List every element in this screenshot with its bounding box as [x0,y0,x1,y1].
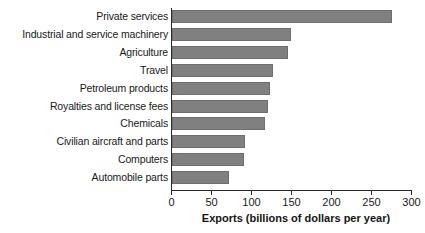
x-tick [331,190,332,195]
bar [172,64,274,77]
category-label: Computers [0,153,168,166]
bar-row: Private services [0,10,425,23]
x-tick [171,190,172,195]
category-label: Royalties and license fees [0,100,168,113]
bar [172,100,269,113]
x-tick [211,190,212,195]
x-axis-title: Exports (billions of dollars per year) [171,212,421,224]
x-tick [291,190,292,195]
category-label: Private services [0,10,168,23]
x-tick [411,190,412,195]
category-label: Agriculture [0,46,168,59]
bar-row: Royalties and license fees [0,100,425,113]
x-tick-label: 300 [392,196,425,208]
bar [172,10,392,23]
bar [172,171,230,184]
x-tick-label: 150 [272,196,312,208]
plot-area: Private servicesIndustrial and service m… [0,0,425,233]
exports-bar-chart: Private servicesIndustrial and service m… [0,0,425,233]
category-label: Petroleum products [0,82,168,95]
bar [172,135,246,148]
bar-row: Travel [0,64,425,77]
bar-row: Agriculture [0,46,425,59]
x-tick [371,190,372,195]
bar [172,82,270,95]
x-tick-label: 50 [192,196,232,208]
x-tick-label: 250 [352,196,392,208]
bar-row: Automobile parts [0,171,425,184]
bar [172,153,244,166]
bar-row: Chemicals [0,117,425,130]
y-axis-line [171,8,172,190]
category-label: Chemicals [0,117,168,130]
x-tick-label: 200 [312,196,352,208]
x-tick-label: 0 [152,196,192,208]
category-label: Civilian aircraft and parts [0,135,168,148]
x-tick [251,190,252,195]
x-tick-label: 100 [232,196,272,208]
bar [172,46,288,59]
bar-row: Computers [0,153,425,166]
category-label: Automobile parts [0,171,168,184]
category-label: Industrial and service machinery [0,28,168,41]
category-label: Travel [0,64,168,77]
bar-row: Petroleum products [0,82,425,95]
bar [172,28,291,41]
bar [172,117,266,130]
bar-row: Civilian aircraft and parts [0,135,425,148]
bar-row: Industrial and service machinery [0,28,425,41]
